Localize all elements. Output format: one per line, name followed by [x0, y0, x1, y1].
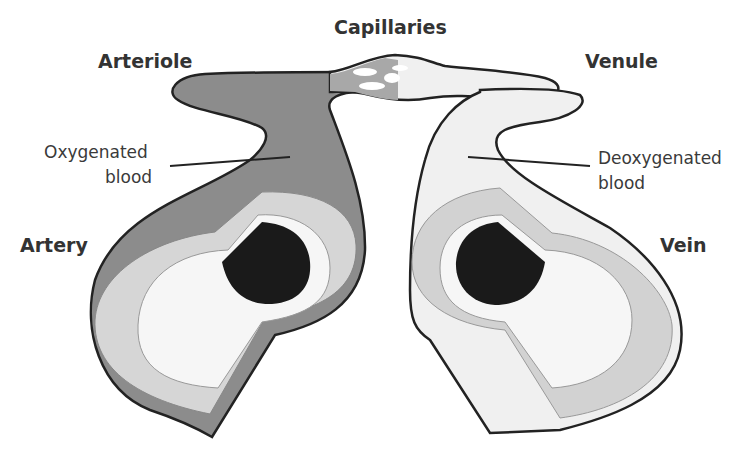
capillary-gap — [353, 68, 377, 76]
capillary-gap — [359, 82, 385, 90]
capillary-gap — [384, 73, 400, 83]
venule-label: Venule — [585, 50, 658, 72]
vein-vessel — [410, 89, 682, 433]
arteriole-label: Arteriole — [98, 50, 192, 72]
artery-vessel — [91, 72, 410, 437]
oxygenated-label-line1: Oxygenated — [44, 142, 148, 162]
capillary-gap — [392, 65, 408, 71]
vein-label: Vein — [660, 234, 707, 256]
deoxygenated-label-line2: blood — [598, 173, 645, 193]
deoxygenated-label-line1: Deoxygenated — [598, 148, 722, 168]
capillaries-label: Capillaries — [334, 16, 447, 38]
blood-vessel-diagram: Capillaries Arteriole Venule Artery Vein… — [0, 0, 748, 459]
artery-label: Artery — [20, 234, 88, 256]
oxygenated-label-line2: blood — [105, 167, 152, 187]
